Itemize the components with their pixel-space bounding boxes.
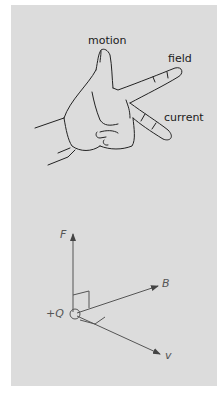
velocity-label: v	[165, 349, 172, 362]
vector-diagram	[0, 0, 222, 397]
force-label: F	[60, 228, 66, 241]
field-label: B	[162, 277, 170, 290]
charge-circle	[70, 309, 80, 319]
charge-label: +Q	[46, 307, 64, 320]
velocity-vector	[77, 316, 160, 354]
